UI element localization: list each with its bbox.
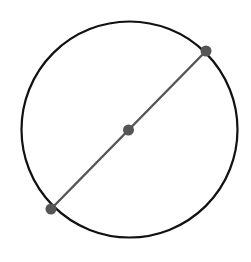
circle-diameter-diagram bbox=[0, 0, 251, 262]
point-endpoint-lower-left bbox=[46, 204, 57, 215]
point-center bbox=[123, 125, 134, 136]
point-endpoint-upper-right bbox=[201, 46, 212, 57]
